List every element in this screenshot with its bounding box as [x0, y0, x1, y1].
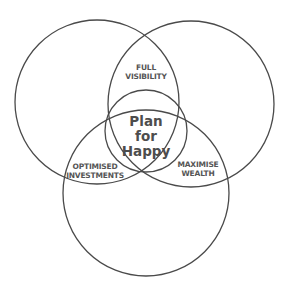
label-plan-for-happy-line2: for [122, 129, 171, 144]
label-plan-for-happy-line3: Happy [122, 144, 171, 159]
label-plan-for-happy: Plan for Happy [122, 114, 171, 159]
left-circle [15, 20, 179, 184]
label-full-visibility: FULL VISIBILITY [125, 63, 166, 81]
label-maximise-wealth-line1: MAXIMISE [177, 160, 218, 169]
label-optimised-investments: OPTIMISED INVESTMENTS [66, 162, 124, 180]
label-optimised-investments-line1: OPTIMISED [66, 162, 124, 171]
label-plan-for-happy-line1: Plan [122, 114, 171, 129]
label-full-visibility-line2: VISIBILITY [125, 72, 166, 81]
label-maximise-wealth-line2: WEALTH [177, 169, 218, 178]
label-optimised-investments-line2: INVESTMENTS [66, 171, 124, 180]
label-maximise-wealth: MAXIMISE WEALTH [177, 160, 218, 178]
label-full-visibility-line1: FULL [125, 63, 166, 72]
